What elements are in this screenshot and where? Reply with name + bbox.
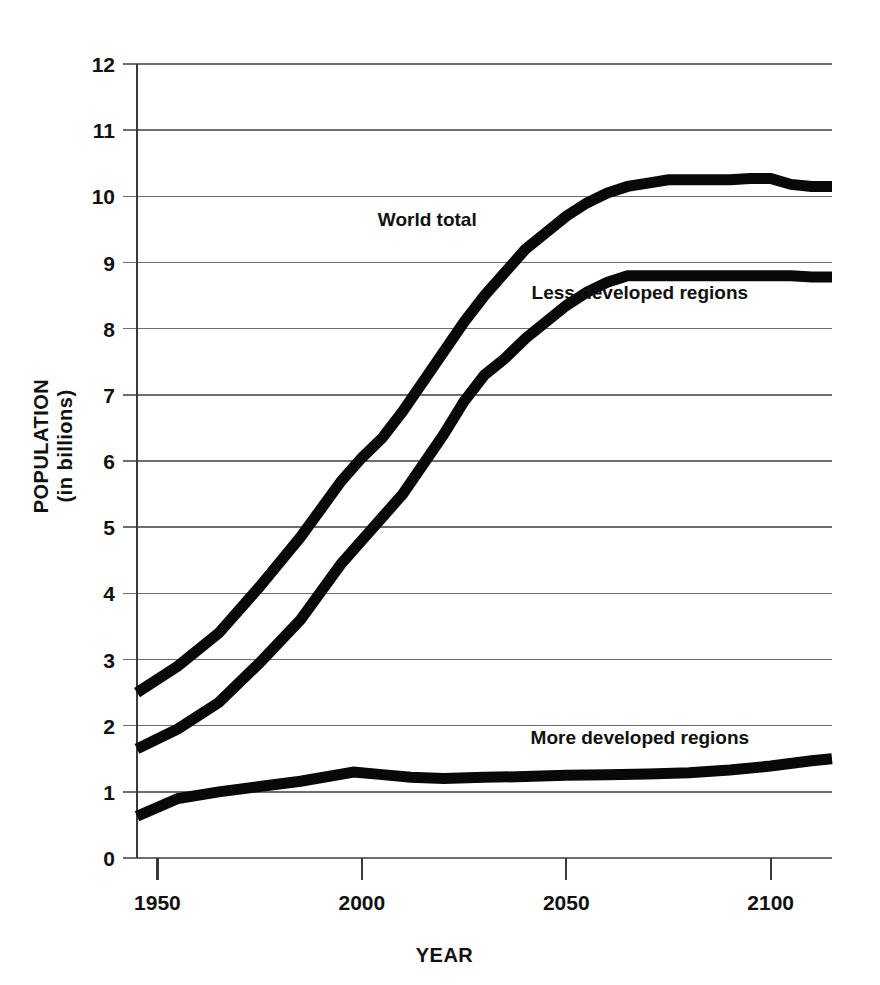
y-tick-label-5: 5: [103, 516, 115, 539]
y-axis-tick-labels: 0123456789101112: [92, 53, 116, 870]
series-line-less-developed-regions: [137, 276, 832, 749]
y-tick-label-1: 1: [103, 781, 115, 804]
population-line-chart: 0123456789101112 1950200020502100 World …: [0, 0, 880, 985]
series-annotations: World totalLess developed regionsMore de…: [378, 209, 749, 748]
y-tick-label-10: 10: [92, 185, 115, 208]
series-line-more-developed-regions: [137, 759, 832, 817]
series-line-world-total: [137, 178, 832, 692]
series-label-less-developed-regions: Less developed regions: [532, 282, 748, 303]
y-tick-label-6: 6: [103, 450, 115, 473]
y-axis-title-line2: (in billions): [54, 389, 76, 502]
y-tick-label-2: 2: [103, 715, 115, 738]
x-tick-label-2000: 2000: [338, 891, 385, 914]
x-tick-label-2050: 2050: [543, 891, 590, 914]
x-tick-label-1950: 1950: [134, 891, 181, 914]
x-axis-tick-labels: 1950200020502100: [134, 891, 794, 914]
y-tick-label-9: 9: [103, 252, 115, 275]
x-axis-title: YEAR: [416, 944, 474, 966]
data-series-lines: [137, 178, 832, 816]
series-label-world-total: World total: [378, 209, 477, 230]
y-tick-label-7: 7: [103, 384, 115, 407]
chart-figure: 0123456789101112 1950200020502100 World …: [0, 0, 880, 985]
x-tick-label-2100: 2100: [747, 891, 794, 914]
y-tick-label-0: 0: [103, 847, 115, 870]
y-tick-label-4: 4: [103, 582, 115, 605]
x-axis-tick-marks: [157, 858, 770, 880]
y-tick-label-3: 3: [103, 649, 115, 672]
y-tick-label-11: 11: [93, 119, 116, 142]
y-tick-label-8: 8: [103, 318, 115, 341]
y-tick-label-12: 12: [92, 53, 115, 76]
series-label-more-developed-regions: More developed regions: [531, 727, 750, 748]
y-axis-title-line1: POPULATION: [30, 379, 52, 514]
